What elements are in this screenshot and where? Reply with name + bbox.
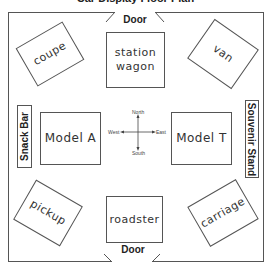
souvenir-stand-label: Souvenir Stand xyxy=(247,102,258,175)
souvenir-stand: Souvenir Stand xyxy=(245,100,259,178)
compass-north: North xyxy=(132,109,144,115)
car-carriage-label: carriage xyxy=(198,195,247,232)
car-roadster-label: roadster xyxy=(109,213,159,227)
car-model-t-label: Model T xyxy=(176,131,227,146)
compass-south: South xyxy=(132,150,145,156)
compass-west: West xyxy=(108,129,119,135)
car-roadster: roadster xyxy=(106,196,163,243)
car-pickup-label: pickup xyxy=(28,197,69,228)
compass-east: East xyxy=(156,129,166,135)
car-model-t: Model T xyxy=(171,112,232,165)
